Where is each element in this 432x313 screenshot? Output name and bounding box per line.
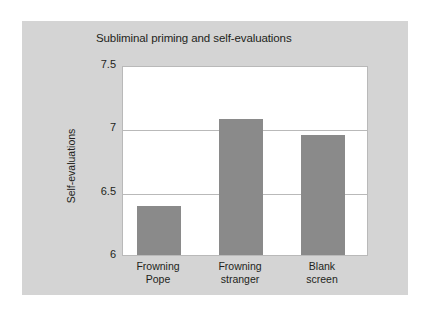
x-axis-tick-label: Blankscreen xyxy=(281,260,363,285)
bar xyxy=(219,119,263,255)
y-axis-tick-label: 6 xyxy=(70,248,116,260)
y-axis-tick-label: 6.5 xyxy=(70,185,116,197)
bar xyxy=(137,206,181,255)
x-axis-tick-label: Frowningstranger xyxy=(199,260,281,285)
x-axis-tick-label-line: Blank xyxy=(281,260,363,273)
y-axis-tick-label: 7 xyxy=(70,121,116,133)
x-axis-tick-label-line: stranger xyxy=(199,273,281,286)
x-axis-tick-label-line: Frowning xyxy=(199,260,281,273)
y-axis-tick-label: 7.5 xyxy=(70,58,116,70)
x-axis-tick-label-line: Pope xyxy=(117,273,199,286)
plot-area xyxy=(122,66,368,256)
x-axis-tick-label-line: screen xyxy=(281,273,363,286)
figure: Subliminal priming and self-evaluations … xyxy=(0,0,432,313)
x-axis-tick-label-line: Frowning xyxy=(117,260,199,273)
bar-series xyxy=(123,67,367,255)
y-axis-title: Self-evaluations xyxy=(65,91,81,241)
x-axis-tick-label: FrowningPope xyxy=(117,260,199,285)
bar xyxy=(301,135,345,255)
chart-title: Subliminal priming and self-evaluations xyxy=(96,32,376,48)
